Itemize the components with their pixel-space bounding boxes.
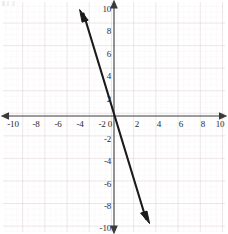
y-tick-label--6: -6 (104, 180, 111, 189)
y-tick-label--4: -4 (104, 157, 111, 166)
x-tick-label--2: -2 (98, 120, 105, 129)
x-tick-label--8: -8 (32, 120, 39, 129)
coordinate-plane-graph: -10 -8 -6 -4 -2 0 2 4 6 8 10 10 8 6 4 2 … (0, 0, 228, 234)
x-tick-label-6: 6 (179, 120, 183, 129)
y-tick-label--10: -10 (100, 224, 111, 233)
y-tick-label-10: 10 (102, 5, 111, 14)
x-tick-label-2: 2 (135, 120, 139, 129)
x-tick-label--4: -4 (76, 120, 83, 129)
x-tick-label-10: 10 (216, 120, 225, 129)
y-tick-label--8: -8 (104, 202, 111, 211)
x-tick-label-0: 0 (108, 120, 112, 129)
x-tick-label-8: 8 (201, 120, 205, 129)
y-tick-label-2: 2 (107, 95, 111, 104)
y-tick-label-6: 6 (107, 50, 111, 59)
y-tick-label-4: 4 (107, 72, 111, 81)
x-tick-label--10: -10 (7, 120, 18, 129)
y-tick-label--2: -2 (104, 135, 111, 144)
plot-canvas (0, 0, 228, 234)
x-tick-label--6: -6 (54, 120, 61, 129)
x-tick-label-4: 4 (157, 120, 161, 129)
y-tick-label-8: 8 (107, 27, 111, 36)
